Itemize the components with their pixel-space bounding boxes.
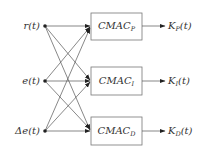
input-label-de: Δe(t) (0, 125, 40, 137)
block-label-d: CMACD (91, 125, 142, 140)
arrow-e-to-p (45, 27, 90, 81)
arrow-de-to-i (45, 82, 90, 131)
node-de (43, 129, 47, 133)
block-label-i: CMACI (91, 75, 142, 90)
input-nodes (43, 24, 47, 133)
input-connections (45, 26, 90, 131)
node-r (43, 24, 47, 28)
arrow-e-to-d (45, 81, 90, 129)
output-label-ki: KI(t) (168, 75, 190, 90)
node-e (43, 79, 47, 83)
arrow-r-to-i (45, 26, 90, 80)
input-label-r: r(t) (0, 20, 40, 32)
arrow-de-to-p (45, 28, 90, 131)
output-label-kp: KP(t) (168, 20, 192, 35)
input-label-e: e(t) (0, 75, 40, 87)
output-connections (142, 26, 165, 131)
arrow-r-to-d (45, 26, 90, 130)
block-label-p: CMACP (91, 20, 142, 35)
output-label-kd: KD(t) (168, 125, 193, 140)
